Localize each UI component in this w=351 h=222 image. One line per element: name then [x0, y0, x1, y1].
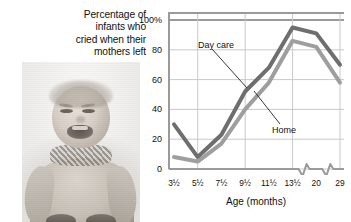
x-tick-label: 13½ [284, 178, 300, 188]
x-axis-labels: 3½5½7½9½11½13½2029 [158, 178, 351, 192]
infant-knee-right [86, 214, 116, 222]
chart-svg [168, 12, 344, 175]
x-tick-label: 9½ [239, 178, 251, 188]
line-chart [168, 12, 344, 175]
y-tick-label: 20 [152, 134, 162, 144]
annotation-day-care: Day care [198, 40, 234, 50]
x-axis-baseline [169, 164, 344, 175]
x-tick-label: 7½ [216, 178, 228, 188]
leader-line-day-care [212, 49, 247, 88]
y-tick-label: 0 [157, 164, 162, 174]
x-axis-title: Age (months) [168, 196, 344, 207]
x-tick-label: 3½ [168, 178, 180, 188]
y-tick-label: 40 [152, 104, 162, 114]
figure-container: Percentage of infants who cried when the… [0, 0, 351, 222]
x-tick-label: 5½ [192, 178, 204, 188]
leader-line-home [254, 91, 280, 124]
infant-eye-left [60, 109, 73, 113]
crying-infant-photo [22, 62, 140, 222]
annotation-home: Home [272, 125, 296, 135]
x-tick-label: 29 [335, 178, 344, 188]
infant-eye-right [82, 109, 95, 113]
infant-teeth [72, 126, 88, 130]
infant-knee-left [46, 214, 76, 222]
series-line-home [174, 41, 340, 162]
y-tick-label: 80 [152, 45, 162, 55]
infant-nose [76, 116, 85, 123]
y-tick-label: 100% [139, 15, 162, 25]
y-tick-label: 60 [152, 75, 162, 85]
x-tick-label: 20 [312, 178, 321, 188]
y-axis-labels: 020406080100% [126, 12, 166, 175]
x-tick-label: 11½ [261, 178, 277, 188]
